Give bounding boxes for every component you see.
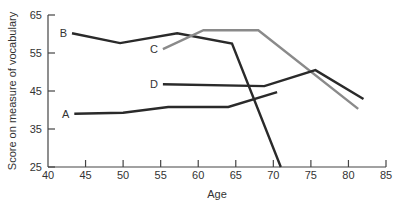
y-tick-label: 55 — [30, 47, 42, 59]
y-tick-label: 25 — [30, 161, 42, 173]
x-tick-label: 70 — [267, 169, 279, 181]
x-axis-title: Age — [207, 188, 227, 200]
series-label-c: C — [150, 43, 158, 55]
y-tick-label: 65 — [30, 9, 42, 21]
x-tick-label: 80 — [342, 169, 354, 181]
x-tick-label: 85 — [380, 169, 392, 181]
x-tick-label: 65 — [230, 169, 242, 181]
y-axis: 2535455565 — [30, 9, 55, 173]
series-layer: ABCD — [60, 27, 364, 167]
series-label-a: A — [62, 108, 70, 120]
series-label-b: B — [60, 27, 67, 39]
x-tick-label: 60 — [192, 169, 204, 181]
x-axis: 40455055606570758085 — [42, 160, 392, 181]
series-line-a — [74, 92, 277, 114]
x-tick-label: 55 — [155, 169, 167, 181]
x-tick-label: 50 — [117, 169, 129, 181]
x-tick-label: 45 — [79, 169, 91, 181]
series-label-d: D — [150, 78, 158, 90]
x-tick-label: 75 — [305, 169, 317, 181]
series-line-d — [163, 70, 364, 99]
y-tick-label: 45 — [30, 85, 42, 97]
x-tick-label: 40 — [42, 169, 54, 181]
line-chart: 2535455565 40455055606570758085 ABCD Age… — [0, 0, 396, 210]
y-axis-title: Score on measure of vocabulary — [6, 11, 18, 170]
y-tick-label: 35 — [30, 123, 42, 135]
